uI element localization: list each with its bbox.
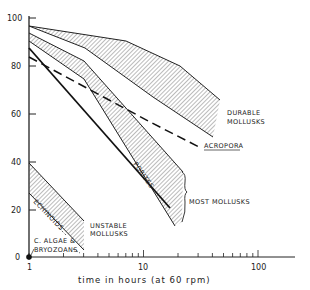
x-tick-10: 10: [138, 263, 148, 272]
chart: 100 80 60 40 20 0: [0, 0, 310, 290]
x-axis-label: time in hours (at 60 rpm): [78, 275, 211, 285]
label-algae-2: BRYOZOANS: [34, 246, 78, 254]
x-axis: 1 10 100 time in hours (at 60 rpm): [27, 250, 295, 285]
x-tick-1: 1: [27, 263, 32, 272]
label-most-mollusks: MOST MOLLUSKS: [189, 198, 250, 206]
label-durable-1: DURABLE: [227, 109, 260, 117]
label-acropora: ACROPORA: [204, 142, 244, 150]
label-unstable-2: MOLLUSKS: [90, 230, 128, 238]
y-tick-60: 60: [11, 110, 21, 119]
label-unstable-1: UNSTABLE: [90, 222, 127, 230]
y-tick-20: 20: [11, 206, 21, 215]
y-tick-80: 80: [11, 62, 21, 71]
y-tick-100: 100: [7, 14, 22, 23]
label-durable-2: MOLLUSKS: [227, 118, 265, 126]
y-tick-0: 0: [15, 253, 20, 262]
y-tick-40: 40: [11, 158, 21, 167]
point-algae-bryozoans: C. ALGAE & BRYOZOANS: [26, 237, 80, 260]
x-tick-100: 100: [251, 263, 266, 272]
label-algae-1: C. ALGAE &: [34, 237, 75, 245]
